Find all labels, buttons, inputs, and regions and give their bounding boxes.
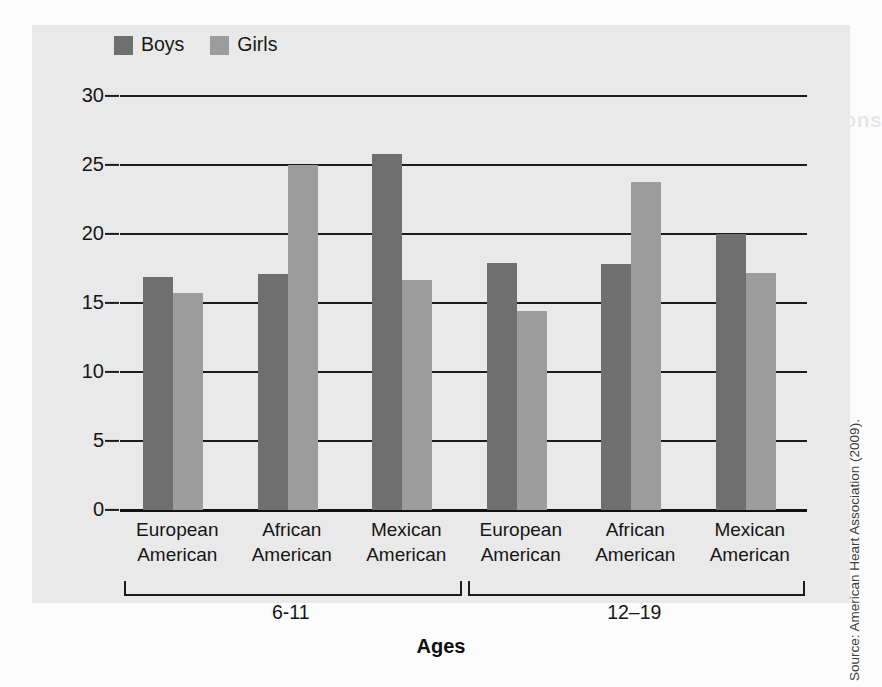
category-label-0: EuropeanAmerican [120, 517, 235, 567]
bar-boys-0 [143, 277, 173, 510]
y-tick-label-30: 30 [82, 84, 104, 107]
bar-boys-4 [601, 264, 631, 510]
y-tick-dash-15 [105, 302, 119, 304]
category-label-3: EuropeanAmerican [464, 517, 579, 567]
category-label-5: MexicanAmerican [693, 517, 808, 567]
y-tick-label-0: 0 [93, 498, 104, 521]
y-tick-label-10: 10 [82, 360, 104, 383]
category-label-2: MexicanAmerican [349, 517, 464, 567]
category-label-line-3-1: American [464, 542, 579, 567]
legend-item-girls: Girls [210, 35, 277, 55]
bar-girls-0 [173, 293, 203, 510]
bar-boys-5 [716, 234, 746, 510]
bar-boys-3 [487, 263, 517, 510]
y-tick-dash-25 [105, 164, 119, 166]
chart-legend: Boys Girls [114, 30, 277, 60]
bar-boys-2 [372, 154, 402, 510]
y-tick-dash-10 [105, 371, 119, 373]
source-note-wrap: Source: American Heart Association (2009… [851, 381, 873, 681]
y-tick-dash-20 [105, 233, 119, 235]
category-label-1: AfricanAmerican [235, 517, 350, 567]
chart-panel: Boys Girls 051015202530 EuropeanAmerican… [32, 25, 850, 603]
y-tick-label-15: 15 [82, 291, 104, 314]
bar-girls-3 [517, 311, 547, 510]
bar-girls-4 [631, 182, 661, 510]
group-label-1: 12–19 [468, 601, 802, 624]
category-label-line-1-0: African [235, 517, 350, 542]
category-label-line-5-1: American [693, 542, 808, 567]
y-tick-label-25: 25 [82, 153, 104, 176]
category-label-line-0-0: European [120, 517, 235, 542]
category-label-line-2-0: Mexican [349, 517, 464, 542]
category-label-line-5-0: Mexican [693, 517, 808, 542]
category-label-line-2-1: American [349, 542, 464, 567]
legend-swatch-boys [114, 36, 133, 55]
bar-boys-1 [258, 274, 288, 510]
y-tick-dash-5 [105, 440, 119, 442]
legend-item-boys: Boys [114, 35, 184, 55]
category-label-line-4-1: American [578, 542, 693, 567]
y-tick-label-5: 5 [93, 429, 104, 452]
bar-girls-5 [746, 273, 776, 510]
category-label-4: AfricanAmerican [578, 517, 693, 567]
legend-label-boys: Boys [141, 35, 184, 55]
group-bracket-0 [124, 581, 462, 596]
bar-girls-1 [288, 165, 318, 510]
plot-area: 051015202530 [120, 96, 807, 510]
y-tick-label-20: 20 [82, 222, 104, 245]
category-label-line-0-1: American [120, 542, 235, 567]
legend-swatch-girls [210, 36, 229, 55]
bar-series-container [120, 96, 807, 510]
group-bracket-1 [468, 581, 806, 596]
group-label-0: 6-11 [124, 601, 458, 624]
x-axis-title: Ages [32, 635, 850, 658]
category-label-line-1-1: American [235, 542, 350, 567]
category-label-line-4-0: African [578, 517, 693, 542]
bar-girls-2 [402, 280, 432, 510]
y-tick-dash-30 [105, 95, 119, 97]
legend-label-girls: Girls [237, 35, 277, 55]
y-tick-dash-0 [105, 509, 119, 511]
category-labels: EuropeanAmericanAfricanAmericanMexicanAm… [120, 517, 807, 573]
source-note: Source: American Heart Association (2009… [847, 674, 862, 681]
category-label-line-3-0: European [464, 517, 579, 542]
